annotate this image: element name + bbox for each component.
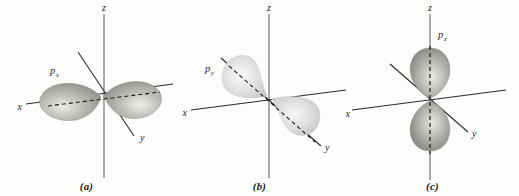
p-orbitals-figure: x y z p x (a) (0, 0, 519, 196)
orbital-lobe-negative (222, 55, 267, 97)
panel-caption: (a) (0, 180, 173, 192)
y-axis-label: y (139, 132, 145, 143)
panel-py-diagram: x y z p y (173, 0, 346, 196)
panel-pz-diagram: x y z p z (346, 0, 519, 196)
x-axis-label: x (346, 108, 351, 119)
panel-py: x y z p y (b) (173, 0, 346, 196)
z-axis-label: z (427, 2, 432, 13)
y-axis-label: y (471, 128, 477, 139)
orbital-label-base: p (437, 29, 443, 40)
orbital-label-base: p (49, 65, 55, 76)
z-axis-label: z (266, 2, 271, 13)
y-axis-label: y (324, 142, 330, 153)
orbital-label-subscript: x (55, 71, 59, 78)
orbital-lobe-negative (40, 83, 101, 120)
orbital-label-base: p (204, 63, 210, 74)
orbital-lobe-positive (104, 81, 162, 118)
panel-caption: (c) (346, 180, 519, 192)
orbital-label-subscript: y (210, 69, 214, 76)
x-axis-label: x (17, 101, 23, 112)
panel-px: x y z p x (a) (0, 0, 173, 196)
panel-px-diagram: x y z p x (0, 0, 173, 196)
orbital-label-subscript: z (443, 35, 447, 42)
panel-pz: x y z p z (c) (346, 0, 519, 196)
z-axis-label: z (101, 2, 106, 13)
panel-caption: (b) (173, 180, 346, 192)
orbital-lobe-positive (272, 97, 320, 136)
x-axis-label: x (182, 107, 188, 118)
